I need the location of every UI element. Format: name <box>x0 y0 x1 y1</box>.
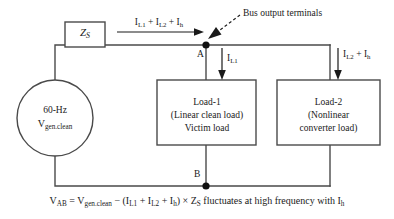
wire-source-to-impedance <box>55 45 65 80</box>
load1-current-label: IL1 <box>227 54 238 64</box>
load1-line3: Victim load <box>185 123 230 133</box>
load1-line2: (Linear clean load) <box>171 110 243 120</box>
load2-line3: converter load) <box>300 123 358 133</box>
load2-line1: Load-2 <box>315 97 342 107</box>
load1-line1: Load-1 <box>193 97 220 107</box>
node-b-dot <box>202 182 209 189</box>
generator-frequency-label: 60-Hz <box>18 106 92 116</box>
top-current-arrow <box>117 28 204 36</box>
load2-label: Load-2 (Nonlinear converter load) <box>278 96 379 135</box>
node-a-label: A <box>197 50 204 60</box>
bus-output-terminals-label: Bus output terminals <box>243 9 322 19</box>
impedance-label: ZS <box>65 27 105 40</box>
total-current-label: IL1 + IL2 + Ih <box>117 18 201 28</box>
load2-line2: (Nonlinear <box>308 110 349 120</box>
generator-voltage-label: Vgen.clean <box>18 119 92 131</box>
generator-source-symbol <box>17 80 93 156</box>
wire-bottom-rail <box>55 156 330 186</box>
node-a-dot <box>202 41 209 48</box>
load2-current-label: IL2 + Ih <box>343 50 370 60</box>
bus-voltage-equation: VAB = Vgen.clean − (IL1 + IL2 + Ih) × ZS… <box>0 196 394 208</box>
node-b-label: B <box>194 170 200 180</box>
load1-current-arrow <box>218 48 226 80</box>
load2-current-arrow <box>334 48 342 80</box>
load1-label: Load-1 (Linear clean load) Victim load <box>158 96 256 135</box>
bus-terminals-callout-pointer <box>208 15 240 39</box>
